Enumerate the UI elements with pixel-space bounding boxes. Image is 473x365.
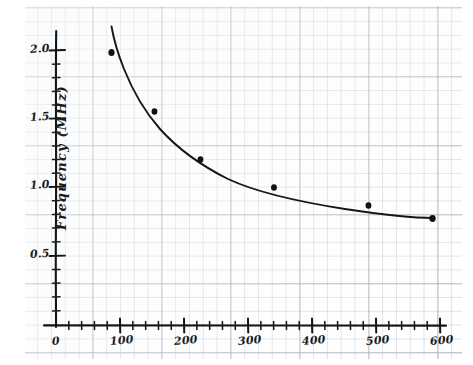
y-tick-label-0-5: 0.5 <box>30 247 51 261</box>
y-tick-label-1-5: 1.5 <box>30 110 51 124</box>
x-tick-label-0: 0 <box>51 334 60 348</box>
x-tick-label-300: 300 <box>237 333 262 348</box>
data-point <box>271 184 277 190</box>
data-point <box>198 156 204 163</box>
x-tick-label-400: 400 <box>301 333 326 348</box>
data-point <box>152 108 158 114</box>
x-tick-label-500: 500 <box>365 333 390 348</box>
y-tick-label-2-0: 2.0 <box>30 42 51 56</box>
chart-page: 2.0 1.5 1.0 0.5 0 100 200 300 400 500 60… <box>0 0 473 365</box>
data-point <box>429 215 435 222</box>
plot-area <box>0 0 473 365</box>
x-tick-label-100: 100 <box>109 333 134 348</box>
data-point <box>366 202 372 208</box>
y-tick-label-1-0: 1.0 <box>30 178 51 192</box>
y-axis-title: Frequency (MHz) <box>54 63 69 253</box>
data-point <box>108 49 114 56</box>
x-tick-label-600: 600 <box>429 333 454 348</box>
data-points <box>108 49 435 222</box>
x-tick-label-200: 200 <box>173 333 198 348</box>
